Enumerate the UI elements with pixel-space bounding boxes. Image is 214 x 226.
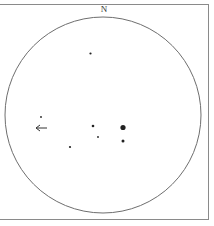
star <box>122 140 125 143</box>
field-of-view-circle <box>5 17 201 213</box>
star <box>120 125 125 130</box>
star <box>69 146 71 148</box>
star <box>40 116 42 118</box>
star <box>97 136 99 138</box>
star-field <box>40 52 126 148</box>
star <box>89 52 91 54</box>
motion-arrow-icon <box>36 125 47 131</box>
eyepiece-view <box>0 0 214 226</box>
star <box>92 125 95 128</box>
